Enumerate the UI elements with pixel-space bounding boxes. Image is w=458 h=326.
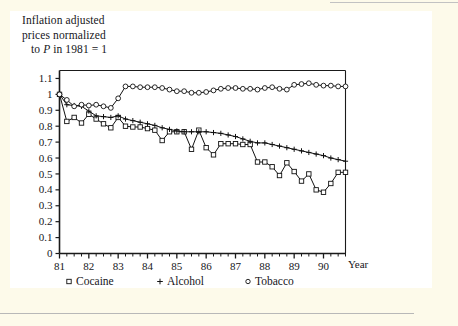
x-tick-label: 90 [318, 260, 330, 272]
marker-square [314, 188, 318, 192]
marker-square [233, 142, 237, 146]
y-tick-label: 0.9 [39, 104, 53, 116]
x-tick-label: 89 [289, 260, 301, 272]
marker-plus [306, 150, 311, 155]
x-tick-label: 87 [230, 260, 242, 272]
marker-plus [240, 136, 245, 141]
marker-circle [108, 105, 113, 110]
marker-plus [270, 142, 275, 147]
marker-circle [343, 84, 348, 89]
marker-circle [255, 87, 260, 92]
marker-circle [196, 90, 201, 95]
marker-plus [138, 120, 143, 125]
marker-plus [160, 125, 165, 130]
marker-square [263, 160, 267, 164]
marker-circle [130, 84, 135, 89]
plot-frame [60, 71, 347, 254]
y-tick-label: 0.8 [39, 120, 53, 132]
x-tick-label: 82 [83, 260, 94, 272]
marker-square [65, 119, 69, 123]
y-tick-label: 0 [47, 247, 53, 259]
marker-square [241, 142, 245, 146]
marker-circle [182, 89, 187, 94]
marker-square [219, 142, 223, 146]
marker-square [336, 170, 340, 174]
marker-plus [336, 157, 341, 162]
series-tobacco [57, 81, 348, 110]
y-tick-label: 1.1 [39, 72, 53, 84]
marker-plus [189, 129, 194, 134]
marker-circle [218, 86, 223, 91]
marker-square [343, 170, 347, 174]
marker-circle [101, 104, 106, 109]
marker-circle [79, 102, 84, 107]
y-tick-label: 0.6 [39, 152, 53, 164]
marker-square [307, 172, 311, 176]
marker-square [329, 181, 333, 185]
y-tick-label: 1 [47, 88, 53, 100]
series-path [60, 94, 346, 192]
marker-square [285, 161, 289, 165]
marker-circle [167, 87, 172, 92]
marker-circle [314, 82, 319, 87]
x-tick-label: 88 [259, 260, 271, 272]
marker-circle [270, 85, 275, 90]
marker-circle [152, 85, 157, 90]
marker-circle [211, 88, 216, 93]
marker-plus [262, 140, 267, 145]
marker-circle [94, 102, 99, 107]
marker-circle [321, 83, 326, 88]
x-tick-label: 84 [142, 260, 154, 272]
marker-plus [277, 143, 282, 148]
legend-label: Tobacco [255, 275, 294, 287]
marker-square [321, 190, 325, 194]
marker-circle [189, 90, 194, 95]
legend-label: Cocaine [76, 275, 114, 287]
marker-square [160, 138, 164, 142]
marker-square [189, 147, 193, 151]
x-axis-caption: Year [348, 258, 369, 270]
y-tick-label: 0.5 [39, 168, 53, 180]
chart-legend: CocaineAlcoholTobacco [67, 275, 294, 287]
x-axis-ticks: 81828384858687888990 [54, 254, 346, 272]
y-tick-label: 0.3 [39, 199, 53, 211]
marker-circle [277, 86, 282, 91]
marker-square [292, 169, 296, 173]
marker-plus [343, 159, 348, 164]
marker-circle [336, 84, 341, 89]
marker-plus [123, 116, 128, 121]
y-tick-label: 0.7 [39, 136, 53, 148]
marker-plus [314, 151, 319, 156]
marker-circle [328, 83, 333, 88]
marker-square [109, 126, 113, 130]
marker-square [226, 142, 230, 146]
marker-square [277, 173, 281, 177]
x-tick-label: 85 [171, 260, 183, 272]
y-tick-label: 0.1 [39, 231, 53, 243]
marker-circle [72, 104, 77, 109]
legend-label: Alcohol [167, 275, 204, 287]
marker-plus [130, 118, 135, 123]
data-series-group [57, 81, 348, 195]
marker-circle [306, 81, 311, 86]
marker-circle [116, 96, 121, 101]
marker-square [131, 125, 135, 129]
marker-plus [204, 129, 209, 134]
marker-plus [108, 115, 113, 120]
price-index-line-chart: 00.10.20.30.40.50.60.70.80.911.1 8182838… [0, 0, 458, 326]
marker-square [138, 125, 142, 129]
marker-plus [299, 148, 304, 153]
marker-circle [145, 85, 150, 90]
marker-square [72, 115, 76, 119]
marker-circle [123, 84, 128, 89]
marker-plus [255, 140, 260, 145]
legend-item-alcohol: Alcohol [157, 275, 204, 287]
marker-circle [204, 90, 209, 95]
series-cocaine [57, 92, 347, 194]
marker-plus [233, 134, 238, 139]
marker-plus [101, 114, 106, 119]
marker-square [255, 160, 259, 164]
marker-plus [152, 123, 157, 128]
marker-plus [328, 155, 333, 160]
marker-circle [233, 86, 238, 91]
